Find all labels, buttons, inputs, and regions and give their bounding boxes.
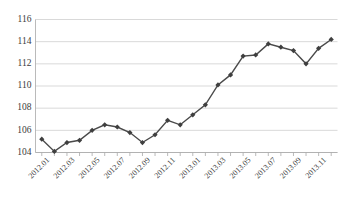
x-axis-tick-label: 2012.07	[102, 156, 127, 181]
x-axis-ticks	[42, 153, 331, 157]
y-axis-tick-label: 112	[18, 58, 32, 68]
series-1-line	[42, 39, 331, 151]
x-axis-tick-label: 2013.03	[203, 156, 228, 181]
data-point-marker	[278, 45, 283, 50]
x-axis-tick-label: 2013.07	[253, 156, 278, 181]
x-axis-tick-label: 2013.05	[228, 156, 253, 181]
chart-plot-area: 104106108110112114116 2012.012012.032012…	[0, 0, 344, 201]
y-axis-tick-label: 110	[18, 80, 32, 90]
y-axis-tick-label: 104	[17, 147, 32, 157]
y-axis-tick-label: 116	[18, 14, 32, 24]
x-axis-tick-labels: 2012.012012.032012.052012.072012.092012.…	[26, 156, 328, 181]
x-axis-tick-label: 2013.11	[304, 156, 329, 181]
x-axis-tick-label: 2012.03	[52, 156, 77, 181]
gridlines-group	[36, 20, 338, 153]
x-axis-tick-label: 2012.05	[77, 156, 102, 181]
y-axis-tick-label: 108	[17, 102, 32, 112]
y-axis-tick-label: 106	[17, 125, 32, 135]
x-axis-tick-label: 2012.01	[26, 156, 51, 181]
line-chart: 104106108110112114116 2012.012012.032012…	[0, 0, 344, 201]
x-axis-tick-label: 2012.09	[127, 156, 152, 181]
y-axis-tick-labels: 104106108110112114116	[17, 14, 32, 157]
x-axis-tick-label: 2013.09	[278, 156, 303, 181]
x-axis-tick-label: 2012.11	[153, 156, 178, 181]
data-point-marker	[102, 122, 107, 127]
data-point-marker	[115, 124, 120, 129]
x-axis-tick-label: 2013.01	[177, 156, 202, 181]
y-axis-tick-label: 114	[18, 36, 32, 46]
